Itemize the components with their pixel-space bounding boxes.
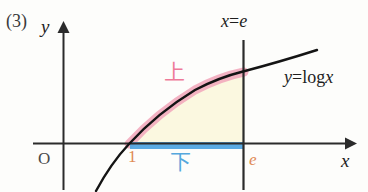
curve-label-log: log [302,67,325,87]
vline-label-e: e [239,11,247,31]
x-axis-arrowhead [345,138,357,150]
curve-label-equals: = [292,67,302,87]
curve-label-y: y [284,67,292,87]
origin-label: O [38,150,50,167]
y-axis-arrowhead [58,21,70,33]
curve-label-x: x [325,67,333,87]
y-axis-label: y [41,17,49,36]
upper-region-label: 上 [164,62,185,83]
vertical-line-label: x=e [221,12,247,30]
problem-number-label: (3) [6,12,27,30]
vline-label-x: x [221,11,229,31]
x-axis-label: x [341,151,349,170]
figure-canvas: (3) y x O 1 e x=e y=logx 上 下 [0,0,368,192]
tick-label-e: e [249,151,257,168]
vline-label-equals: = [229,11,239,31]
tick-label-one: 1 [128,148,137,165]
curve-equation-label: y=logx [284,68,333,86]
lower-region-label: 下 [170,152,191,173]
shaded-region-under-curve [130,72,243,143]
